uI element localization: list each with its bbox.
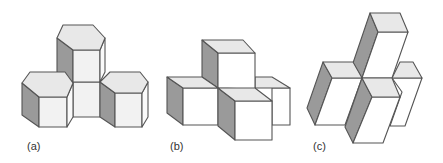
- hex-top-front: [73, 50, 100, 82]
- cube-front-front: [235, 101, 272, 140]
- cube-right-top: [255, 77, 290, 88]
- panel-a-hex-prisms: [22, 25, 148, 127]
- hex-right-front: [115, 93, 142, 127]
- panel-a-label: (a): [27, 140, 40, 152]
- cube-top-front: [218, 53, 255, 89]
- panel-c-rhombic-prisms: [307, 13, 422, 143]
- panel-c-label: (c): [313, 140, 326, 152]
- figure-canvas: [0, 0, 443, 163]
- hex-center-face: [73, 82, 100, 117]
- cube-right-front: [272, 88, 290, 125]
- panel-b-cubes: [167, 40, 290, 140]
- hex-left-front: [39, 97, 67, 127]
- panel-b-label: (b): [170, 140, 183, 152]
- cube-left-front: [183, 88, 218, 125]
